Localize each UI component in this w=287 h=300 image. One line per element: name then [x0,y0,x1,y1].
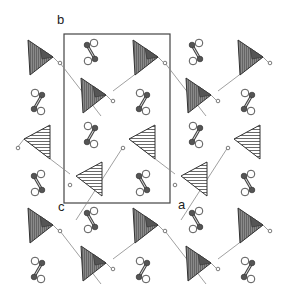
tetrahedron-face [250,48,263,59]
bridge-atom [58,61,62,65]
atom-dark [197,56,203,62]
atom-dark [31,274,37,280]
atom-dark [136,173,142,179]
atom-open [247,170,255,178]
bridge-atom [216,99,220,103]
atom-open [247,107,255,115]
bridge-bond [263,225,268,230]
tetrahedron-face [198,86,211,97]
axis-label-a: a [178,198,185,211]
bridge-atom [163,61,167,65]
bridge-bond [53,57,58,62]
atom-open [195,207,203,215]
bridge-bond [158,225,163,230]
atom-dark [249,187,255,193]
atom-open [136,89,144,97]
bridge-atom [173,183,177,187]
atom-open [37,107,45,115]
bridge-atom [16,146,20,150]
triangle-hatched [24,125,50,159]
tetrahedron-face [40,216,53,227]
bridge-atom [121,146,125,150]
atom-open [90,140,98,148]
tetrahedron-face [250,216,263,227]
bridge-atom [268,61,272,65]
tetrahedron-face [145,216,158,227]
atom-open [37,275,45,283]
atom-dark [144,92,150,98]
atom-dark [84,139,90,145]
bridge-atom [68,183,72,187]
atom-open [142,275,150,283]
atom-open [195,140,203,148]
atom-dark [136,274,142,280]
bridge-atom [268,229,272,233]
tetrahedron-face [198,254,211,265]
bridge-bond [211,95,216,100]
atom-dark [197,224,203,230]
atom-open [241,257,249,265]
atom-open [142,170,150,178]
atom-open [84,122,92,130]
atom-open [31,188,39,196]
bridge-atom [111,267,115,271]
axis-label-c: c [58,200,65,213]
crystal-structure-diagram [0,0,287,300]
bridge-bond [53,225,58,230]
atom-open [189,122,197,130]
atom-dark [39,92,45,98]
atom-open [136,257,144,265]
atom-dark [31,173,37,179]
bridge-atom [58,229,62,233]
atom-dark [189,42,195,48]
triangle-hatched [76,162,102,196]
bridge-atom [216,267,220,271]
atom-open [84,225,92,233]
atom-dark [39,260,45,266]
atom-dark [241,274,247,280]
atom-dark [144,187,150,193]
bridge-atom [163,229,167,233]
atom-dark [241,106,247,112]
atom-dark [84,42,90,48]
atom-dark [189,210,195,216]
atom-dark [197,125,203,131]
atom-dark [92,125,98,131]
bridge-bond [263,57,268,62]
atom-open [37,170,45,178]
atom-dark [92,56,98,62]
atom-dark [39,187,45,193]
atom-dark [189,139,195,145]
atom-open [247,275,255,283]
atom-open [84,57,92,65]
atom-open [31,89,39,97]
atom-open [136,188,144,196]
atom-dark [249,92,255,98]
axis-label-b: b [57,13,64,26]
triangle-hatched [234,125,260,159]
atom-dark [136,106,142,112]
bridge-bond [211,263,216,268]
bridge-bond [158,57,163,62]
atom-dark [92,224,98,230]
atom-open [31,257,39,265]
atom-open [90,207,98,215]
bridge-atom [226,146,230,150]
atom-open [241,188,249,196]
atom-dark [31,106,37,112]
tetrahedron-face [145,48,158,59]
atom-open [90,39,98,47]
atom-open [195,39,203,47]
atom-open [142,107,150,115]
tetrahedron-face [93,254,106,265]
atom-open [189,57,197,65]
triangle-hatched [181,162,207,196]
atom-dark [249,260,255,266]
atom-dark [84,210,90,216]
bridge-bond [106,263,111,268]
tetrahedron-face [93,86,106,97]
atom-open [189,225,197,233]
bridge-bond [106,95,111,100]
tetrahedron-face [40,48,53,59]
triangle-hatched [129,125,155,159]
